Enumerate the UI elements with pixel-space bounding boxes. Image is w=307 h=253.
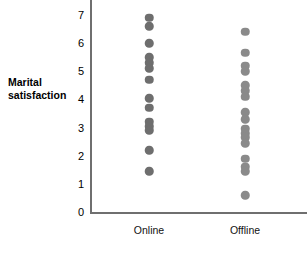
y-tick-label-2: 2	[62, 150, 84, 161]
data-point	[145, 14, 154, 23]
data-point	[241, 67, 250, 76]
x-axis-line	[90, 212, 307, 214]
x-tick-label-offline: Offline	[230, 224, 260, 236]
data-point	[241, 167, 250, 176]
dot-plot-chart: Marital satisfaction 01234567 OnlineOffl…	[0, 0, 307, 253]
x-tick-label-online: Online	[134, 224, 164, 236]
data-point	[241, 154, 250, 163]
y-tick-label-0: 0	[62, 207, 84, 218]
data-point	[241, 191, 250, 200]
data-point	[145, 94, 154, 103]
y-axis-tick-labels: 01234567	[62, 0, 84, 213]
data-point	[145, 126, 154, 135]
y-tick-label-6: 6	[62, 38, 84, 49]
data-point	[145, 146, 154, 155]
data-point	[145, 64, 154, 73]
data-point	[241, 28, 250, 37]
y-tick-label-4: 4	[62, 94, 84, 105]
data-point	[145, 167, 154, 176]
y-tick-label-3: 3	[62, 122, 84, 133]
y-tick-label-7: 7	[62, 10, 84, 21]
plot-area	[92, 0, 307, 212]
y-tick-label-5: 5	[62, 66, 84, 77]
data-point	[241, 139, 250, 148]
data-point	[241, 92, 250, 101]
data-point	[145, 22, 154, 31]
data-point	[145, 104, 154, 113]
data-point	[241, 49, 250, 58]
data-point	[145, 75, 154, 84]
data-point	[145, 39, 154, 48]
y-tick-label-1: 1	[62, 178, 84, 189]
data-point	[241, 115, 250, 124]
